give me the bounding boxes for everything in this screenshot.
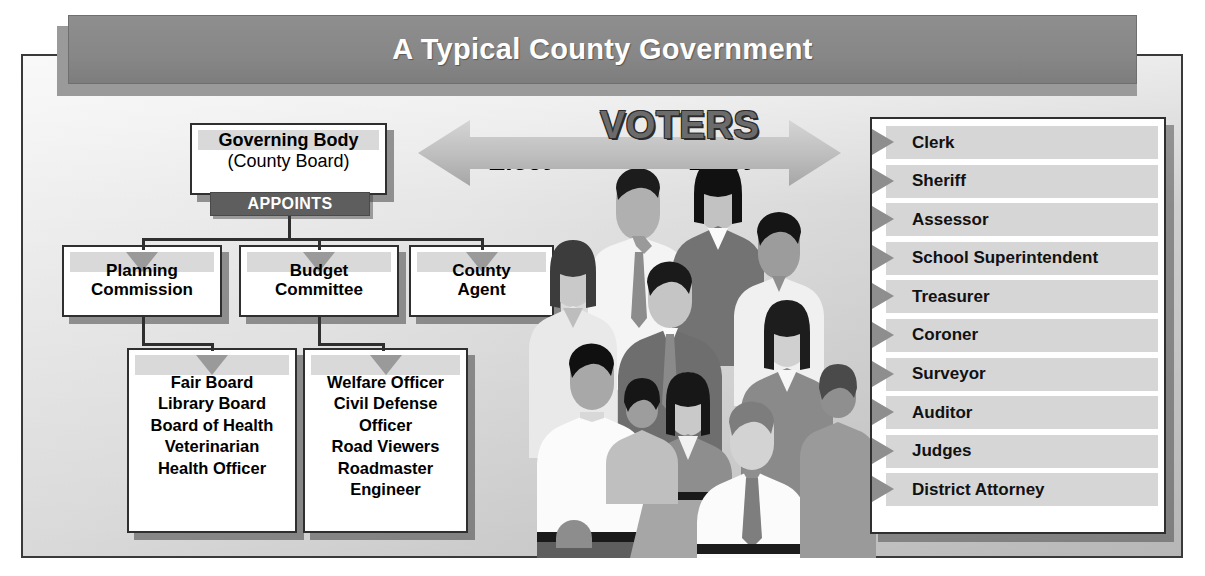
list-item[interactable]: Auditor <box>886 396 1158 429</box>
appoints-label: APPOINTS <box>248 195 333 213</box>
list-item[interactable]: Assessor <box>886 203 1158 236</box>
box-label-line2: Committee <box>275 280 363 299</box>
official-label: Sheriff <box>912 171 966 191</box>
list-item: Veterinarian <box>165 436 259 457</box>
chevron-right-icon <box>872 206 894 232</box>
voters-crowd-illustration <box>520 140 880 558</box>
box-label-line1: Budget <box>290 261 349 280</box>
boards-list-box[interactable]: Fair Board Library Board Board of Health… <box>127 348 297 533</box>
diagram-canvas: A Typical County Government Governing Bo… <box>0 0 1205 576</box>
list-item[interactable]: Treasurer <box>886 280 1158 313</box>
list-item[interactable]: Coroner <box>886 319 1158 352</box>
official-label: Surveyor <box>912 364 986 384</box>
chevron-right-icon <box>872 129 894 155</box>
list-item[interactable]: District Attorney <box>886 473 1158 506</box>
official-label: Judges <box>912 441 972 461</box>
box-label-line1: County <box>452 261 511 280</box>
official-label: Treasurer <box>912 287 990 307</box>
official-label: Assessor <box>912 210 989 230</box>
governing-body-box[interactable]: Governing Body (County Board) <box>190 123 387 195</box>
list-item[interactable]: Sheriff <box>886 165 1158 198</box>
list-item: Health Officer <box>158 458 266 479</box>
list-item: Road Viewers <box>332 436 440 457</box>
title-bar: A Typical County Government <box>68 15 1137 84</box>
chevron-right-icon <box>872 283 894 309</box>
official-label: School Superintendent <box>912 248 1098 268</box>
officers-list-box[interactable]: Welfare Officer Civil Defense Officer Ro… <box>303 348 468 533</box>
chevron-right-icon <box>872 322 894 348</box>
box-label-line2: Agent <box>457 280 505 299</box>
connector-welfare-bus <box>318 343 385 346</box>
official-label: Auditor <box>912 403 972 423</box>
list-item[interactable]: Surveyor <box>886 358 1158 391</box>
voters-label: VOTERS <box>600 104 759 147</box>
list-item: Roadmaster <box>338 458 433 479</box>
list-item[interactable]: Clerk <box>886 126 1158 159</box>
county-agent-box[interactable]: County Agent <box>409 245 554 317</box>
list-item: Civil Defense <box>334 393 438 414</box>
list-item: Engineer <box>350 479 421 500</box>
governing-body-title: Governing Body <box>218 130 358 150</box>
list-item[interactable]: School Superintendent <box>886 242 1158 275</box>
list-item[interactable]: Judges <box>886 435 1158 468</box>
chevron-right-icon <box>872 245 894 271</box>
list-item: Board of Health <box>151 415 274 436</box>
chevron-right-icon <box>872 168 894 194</box>
official-label: District Attorney <box>912 480 1045 500</box>
connector-fairboard-bus <box>142 343 214 346</box>
chevron-right-icon <box>872 438 894 464</box>
planning-commission-box[interactable]: Planning Commission <box>62 245 222 317</box>
governing-body-subtitle: (County Board) <box>227 151 349 171</box>
connector-horizontal-bus <box>142 238 484 241</box>
list-item: Fair Board <box>171 372 254 393</box>
list-item: Library Board <box>158 393 266 414</box>
page-title: A Typical County Government <box>392 33 813 66</box>
box-label-line1: Planning <box>106 261 178 280</box>
connector-appoints-stem <box>288 216 291 240</box>
box-label-line2: Commission <box>91 280 193 299</box>
list-item: Officer <box>359 415 412 436</box>
budget-committee-box[interactable]: Budget Committee <box>239 245 399 317</box>
chevron-right-icon <box>872 399 894 425</box>
chevron-right-icon <box>872 476 894 502</box>
appoints-banner: APPOINTS <box>210 192 370 216</box>
official-label: Coroner <box>912 325 978 345</box>
elected-officials-panel: Clerk Sheriff Assessor School Superinten… <box>870 117 1166 534</box>
chevron-right-icon <box>872 361 894 387</box>
list-item: Welfare Officer <box>327 372 444 393</box>
official-label: Clerk <box>912 133 955 153</box>
